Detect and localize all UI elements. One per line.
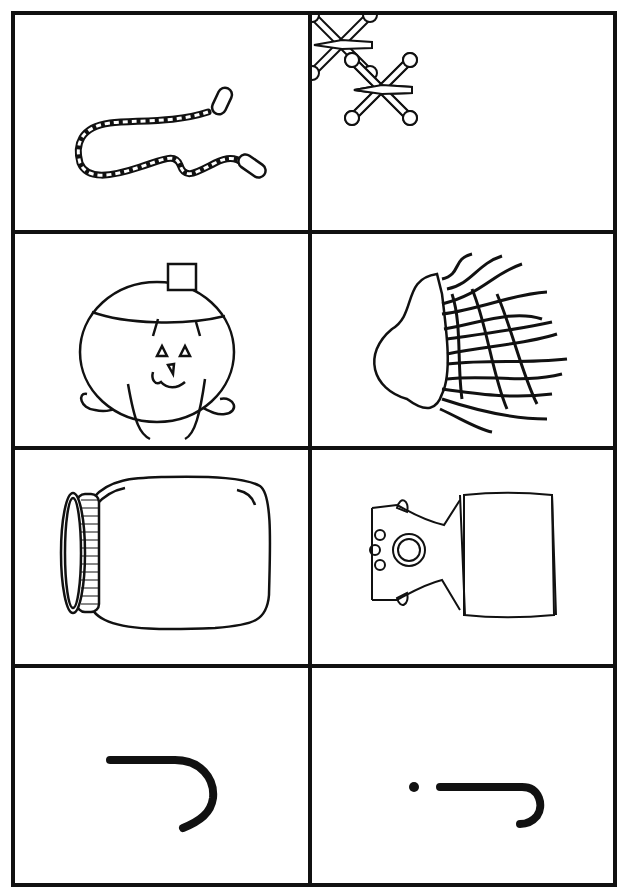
jellyfish-icon (312, 234, 613, 446)
cell-jar: jar (15, 450, 308, 664)
jump-rope-icon (15, 15, 308, 230)
jack-in-the-box-icon (312, 450, 613, 664)
letter-j-lowercase-icon (312, 668, 613, 883)
cell-jellyfish: jellyfish (312, 234, 613, 446)
cell-jack-in-the-box: jack-in-the-box (312, 450, 613, 664)
cell-jump-rope: jump rope (15, 15, 308, 230)
cell-jack-o-lantern: jack-o'-lantern (15, 234, 308, 446)
letter-j-uppercase-icon (15, 668, 308, 883)
jack-o-lantern-icon (15, 234, 308, 446)
cell-letter-lowercase-j: j (312, 668, 613, 883)
cell-letter-uppercase-j: J (15, 668, 308, 883)
jacks-icon-2 (312, 15, 613, 230)
jar-icon (15, 450, 308, 664)
cell-jacks: jacks (312, 15, 613, 230)
